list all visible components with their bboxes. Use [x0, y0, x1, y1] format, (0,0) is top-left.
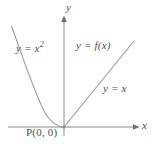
y-axis-arrowhead [61, 16, 67, 23]
x-axis-label: x [142, 120, 147, 131]
point-p-marker [62, 125, 65, 128]
figure-container: y = x2 y = f(x) y = x P(0, 0) x y [0, 0, 152, 147]
graph-canvas [0, 0, 152, 147]
y-axis-label: y [66, 2, 71, 13]
curve-label-line: y = x [103, 83, 127, 94]
x-axis-arrowhead [133, 124, 140, 130]
point-label-p: P(0, 0) [26, 127, 57, 138]
curve-label-parabola: y = x2 [16, 41, 44, 54]
curve-label-function: y = f(x) [76, 40, 111, 51]
exponent-two: 2 [40, 40, 44, 49]
